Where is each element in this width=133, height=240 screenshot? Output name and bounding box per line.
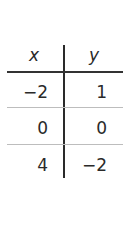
cell-y: −2 [70, 155, 107, 175]
cell-y: 0 [70, 118, 107, 138]
header-rule [7, 71, 123, 73]
header-x: x [6, 45, 62, 65]
column-divider [63, 45, 65, 178]
cell-x: 4 [6, 155, 48, 175]
row-divider [7, 107, 123, 108]
row-divider [7, 144, 123, 145]
header-y: y [66, 45, 122, 65]
cell-x: −2 [6, 82, 48, 102]
cell-x: 0 [6, 118, 48, 138]
cell-y: 1 [70, 82, 107, 102]
